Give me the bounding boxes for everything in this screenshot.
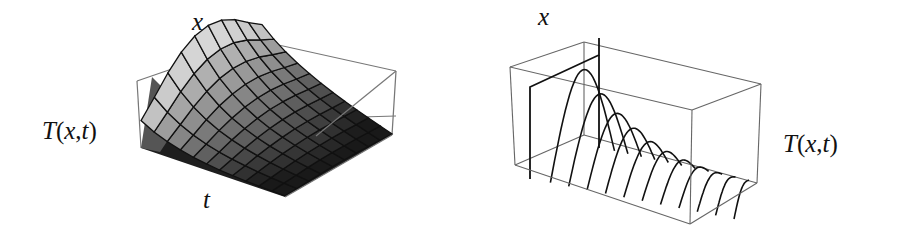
left-t-axis-label: t — [203, 186, 210, 214]
right-x-axis-label: x — [538, 3, 549, 31]
figure: x t T(x,t) x T(x,t) — [0, 0, 898, 243]
bounding-box-edge — [757, 84, 761, 183]
left-T-axis-label: T(x,t) — [42, 117, 97, 145]
right-T-axis-label: T(x,t) — [783, 130, 838, 158]
bounding-box-edge — [692, 84, 761, 110]
bounding-box-edge — [510, 42, 584, 67]
bounding-box-edge — [584, 42, 761, 84]
bounding-box-edge — [510, 67, 692, 110]
profile-curve — [587, 113, 641, 189]
profile-curves — [530, 38, 749, 219]
bounding-box-edge — [690, 110, 692, 224]
right-T-args: (x,t) — [797, 130, 838, 157]
bounding-box-edge — [510, 67, 515, 165]
profile-curve — [734, 180, 749, 219]
left-T-args: (x,t) — [56, 117, 97, 144]
profile-curve — [642, 152, 682, 201]
profile-curve — [716, 177, 736, 216]
profile-line-plot — [0, 0, 898, 243]
left-x-axis-label: x — [192, 8, 203, 36]
